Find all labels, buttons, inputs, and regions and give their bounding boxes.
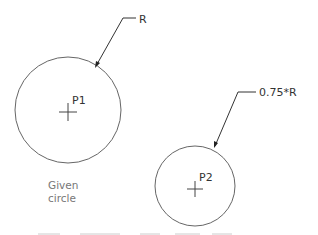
- given-circle-group: P1 R Given circle: [15, 13, 147, 204]
- radius-leader-scaled: [214, 92, 256, 148]
- point-label-p1: P1: [72, 94, 86, 107]
- point-label-p2: P2: [199, 171, 213, 184]
- leader-label-scaled: 0.75*R: [259, 86, 297, 99]
- caption-circle: circle: [48, 192, 76, 204]
- leader-arrowhead-icon: [214, 141, 218, 148]
- scaled-circle-group: P2 0.75*R: [155, 86, 297, 226]
- construction-diagram: P1 R Given circle P2 0.75*R: [0, 0, 318, 235]
- caption-given: Given: [48, 179, 78, 191]
- leader-label-r: R: [139, 13, 147, 26]
- radius-leader-r: [95, 18, 136, 68]
